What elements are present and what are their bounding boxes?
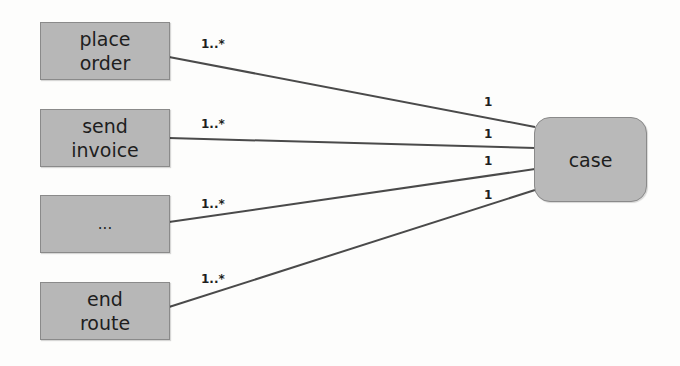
node-label: ...	[98, 212, 112, 236]
multiplicity-target-send-invoice: 1	[484, 127, 492, 141]
node-place-order: place order	[40, 22, 170, 80]
node-send-invoice: send invoice	[40, 109, 170, 167]
node-end-route: end route	[40, 282, 170, 340]
multiplicity-target-end-route: 1	[484, 188, 492, 202]
multiplicity-target-ellipsis: 1	[484, 154, 492, 168]
edge-send-invoice-to-case	[169, 138, 535, 148]
edge-ellipsis-to-case	[169, 169, 535, 222]
node-label: send invoice	[71, 114, 139, 162]
multiplicity-source-send-invoice: 1..*	[201, 117, 225, 131]
node-label: case	[569, 148, 613, 172]
node-label: place order	[79, 27, 130, 75]
multiplicity-source-ellipsis: 1..*	[201, 197, 225, 211]
node-label: end route	[80, 287, 130, 335]
multiplicity-target-place-order: 1	[484, 95, 492, 109]
node-ellipsis: ...	[40, 195, 170, 253]
multiplicity-source-end-route: 1..*	[201, 272, 225, 286]
diagram-canvas: place order send invoice ... end route c…	[0, 0, 680, 366]
multiplicity-source-place-order: 1..*	[201, 37, 225, 51]
node-case: case	[534, 117, 647, 202]
